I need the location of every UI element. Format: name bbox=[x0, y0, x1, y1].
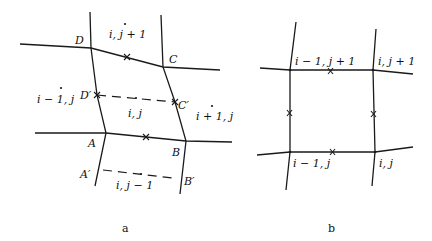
vertex-label-aprime: A′ bbox=[79, 168, 91, 181]
cell-label-right: i + 1, j bbox=[196, 110, 234, 123]
cell-label-top: i, j + 1 bbox=[109, 28, 146, 41]
dot-top bbox=[124, 23, 126, 25]
grid-line-b-top bbox=[260, 68, 413, 74]
dashed-line-aprime-bprime bbox=[103, 170, 173, 178]
node-top-right bbox=[372, 69, 375, 72]
vertex-label-d: D bbox=[74, 34, 84, 47]
node-label-bottom-left: i − 1, j bbox=[293, 157, 331, 170]
vertex-label-dprime: D′ bbox=[79, 89, 92, 102]
node-bottom-left bbox=[289, 151, 292, 154]
panel-a: D C D′ C′ A B A′ B′ i, j + 1 i, j i − 1,… bbox=[20, 12, 234, 235]
grid-line-b-right bbox=[372, 29, 376, 186]
node-label-top-left: i − 1, j + 1 bbox=[295, 55, 355, 68]
node-label-bottom-right: i, j bbox=[379, 157, 394, 170]
dot-bottom bbox=[140, 173, 142, 175]
cell-label-left: i − 1, j bbox=[37, 93, 75, 106]
vertex-label-a: A bbox=[87, 137, 96, 150]
staggered-grid-figure: D C D′ C′ A B A′ B′ i, j + 1 i, j i − 1,… bbox=[0, 0, 432, 241]
node-bottom-right bbox=[374, 151, 377, 154]
cell-label-center: i, j bbox=[128, 107, 143, 120]
grid-line-bottom bbox=[35, 133, 232, 142]
cell-label-bottom: i, j − 1 bbox=[116, 179, 153, 192]
vertex-label-b: B bbox=[171, 146, 180, 159]
vertex-label-bprime: B′ bbox=[183, 175, 195, 188]
panel-b: i − 1, j + 1 i, j + 1 i − 1, j i, j b bbox=[257, 22, 415, 235]
dot-left bbox=[60, 87, 62, 89]
panel-b-caption: b bbox=[328, 222, 335, 235]
node-top-left bbox=[289, 69, 292, 72]
cross-marker-b-top bbox=[328, 68, 333, 74]
dot-center bbox=[135, 97, 137, 99]
grid-line-top bbox=[20, 44, 220, 70]
vertex-label-cprime: C′ bbox=[178, 99, 189, 112]
grid-line-b-bottom bbox=[257, 147, 413, 155]
vertex-label-c: C bbox=[169, 53, 178, 66]
node-label-top-right: i, j + 1 bbox=[378, 55, 415, 68]
grid-line-left bbox=[90, 12, 106, 186]
panel-a-caption: a bbox=[122, 222, 129, 235]
dot-right bbox=[211, 105, 213, 107]
